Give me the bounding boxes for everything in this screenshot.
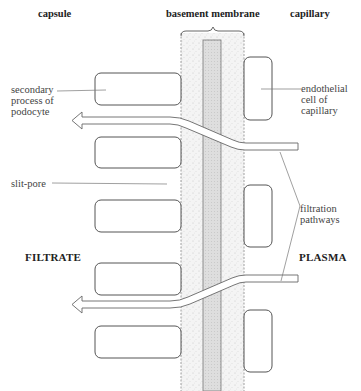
label-slit-pore: slit-pore — [11, 178, 46, 189]
glomerular-filtration-diagram — [0, 0, 361, 391]
endothelial-cell — [244, 185, 272, 247]
podocyte-processes — [95, 73, 181, 358]
podocyte-process — [95, 326, 181, 358]
podocyte-process — [95, 263, 181, 295]
endothelial-cell — [244, 310, 272, 372]
podocyte-process — [95, 73, 181, 105]
podocyte-process — [95, 137, 181, 168]
endothelial-cells — [244, 57, 272, 372]
label-secondary-process: secondary process of podocyte — [11, 84, 54, 117]
lamina-densa — [203, 40, 221, 391]
leader-slit-pore — [52, 183, 167, 184]
label-filtrate: FILTRATE — [25, 251, 81, 263]
header-capsule: capsule — [38, 8, 71, 19]
label-plasma: PLASMA — [299, 251, 347, 263]
header-basement-membrane: basement membrane — [166, 8, 260, 19]
label-filtration-pathways: filtration pathways — [300, 203, 340, 225]
header-capillary: capillary — [290, 8, 330, 19]
podocyte-process — [95, 200, 181, 232]
label-endothelial-cell: endothelial cell of capillary — [301, 83, 348, 116]
endothelial-cell — [244, 57, 272, 120]
leader-filtration-pathways — [280, 152, 300, 281]
